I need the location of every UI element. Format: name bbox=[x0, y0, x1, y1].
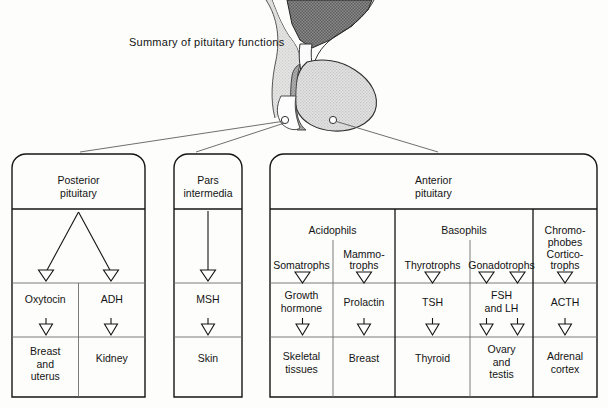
cell-target-breast-uterus: Breast and uterus bbox=[12, 345, 79, 391]
leader-line-anterior bbox=[336, 122, 438, 153]
leader-line-posterior bbox=[80, 122, 282, 153]
diagram-canvas: Summary of pituitary functions Posterior… bbox=[0, 0, 608, 408]
anterior-marker-icon bbox=[329, 116, 336, 123]
cell-target-skeletal-tissues: Skeletal tissues bbox=[270, 350, 333, 382]
cell-hormone-fsh-lh: FSH and LH bbox=[470, 288, 533, 316]
cell-hormone-growth-hormone: Growth hormone bbox=[270, 288, 333, 316]
posterior-branch-left bbox=[46, 212, 79, 272]
group-label-basophils: Basophils bbox=[395, 222, 533, 238]
anterior-arrowhead-gonadotrophs-lh bbox=[510, 272, 525, 283]
anterior-arrowhead-corticotrophs bbox=[558, 272, 573, 283]
celltype-gonadotrophs: Gonadotrophs bbox=[470, 240, 533, 272]
cell-hormone-acth: ACTH bbox=[533, 288, 597, 316]
cell-hormone-adh: ADH bbox=[79, 286, 146, 312]
pars-arrowhead-msh-out bbox=[202, 324, 215, 335]
cell-hormone-oxytocin: Oxytocin bbox=[12, 286, 79, 312]
anterior-arrowhead-acth bbox=[559, 324, 572, 335]
anterior-arrowhead-tsh bbox=[426, 324, 439, 335]
cell-hormone-prolactin: Prolactin bbox=[333, 288, 395, 316]
cell-target-kidney: Kidney bbox=[79, 352, 146, 382]
cell-target-breast: Breast bbox=[333, 352, 395, 382]
anterior-arrowhead-prolactin bbox=[358, 324, 371, 335]
celltype-thyrotrophs: Thyrotrophs bbox=[395, 240, 470, 272]
cell-target-adrenal-cortex: Adrenal cortex bbox=[533, 350, 597, 382]
pars-arrowhead-msh-in bbox=[201, 270, 216, 281]
celltype-chromophobes-corticotrophs: Chromo- phobes Cortico- trophs bbox=[533, 212, 597, 272]
panel-posterior-heading: Posterior pituitary bbox=[12, 168, 145, 206]
anterior-arrowhead-fsh bbox=[480, 324, 493, 335]
anterior-arrowhead-gh bbox=[296, 324, 309, 335]
cell-target-ovary-testis: Ovary and testis bbox=[470, 343, 533, 389]
anterior-arrowhead-somatrophs bbox=[295, 272, 310, 283]
posterior-arrowhead-right bbox=[104, 270, 119, 281]
cell-target-thyroid: Thyroid bbox=[395, 352, 470, 382]
celltype-somatrophs: Somatrophs bbox=[270, 240, 333, 272]
posterior-arrowhead-adh bbox=[105, 324, 118, 335]
posterior-arrowhead-left bbox=[39, 270, 54, 281]
posterior-marker-icon bbox=[281, 116, 288, 123]
posterior-arrowhead-oxytocin bbox=[40, 324, 53, 335]
panel-pars-heading: Pars intermedia bbox=[174, 168, 242, 206]
posterior-branch-right bbox=[79, 212, 112, 272]
panel-anterior-heading: Anterior pituitary bbox=[270, 168, 597, 206]
anterior-arrowhead-thyrotrophs bbox=[425, 272, 440, 283]
cell-hormone-tsh: TSH bbox=[395, 288, 470, 316]
anterior-arrowhead-mammotrophs bbox=[357, 272, 372, 283]
celltype-mammotrophs: Mammo- trophs bbox=[333, 236, 395, 272]
cell-target-skin: Skin bbox=[174, 352, 242, 382]
cell-hormone-msh: MSH bbox=[174, 286, 242, 312]
page-title: Summary of pituitary functions bbox=[129, 36, 284, 48]
anterior-arrowhead-gonadotrophs-fsh bbox=[479, 272, 494, 283]
anterior-arrowhead-lh bbox=[511, 324, 524, 335]
